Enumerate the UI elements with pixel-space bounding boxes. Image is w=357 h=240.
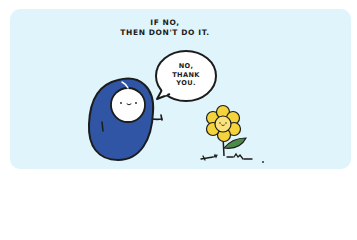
blue-blob-character — [89, 79, 162, 160]
bubble-line-1: NO, — [164, 62, 208, 71]
bubble-line-3: YOU. — [164, 79, 208, 88]
bubble-line-2: THANK — [164, 71, 208, 80]
smiling-flower — [207, 106, 247, 157]
grass — [201, 154, 252, 160]
speech-bubble-text: NO, THANK YOU. — [164, 62, 208, 88]
grass-dot — [262, 161, 264, 163]
